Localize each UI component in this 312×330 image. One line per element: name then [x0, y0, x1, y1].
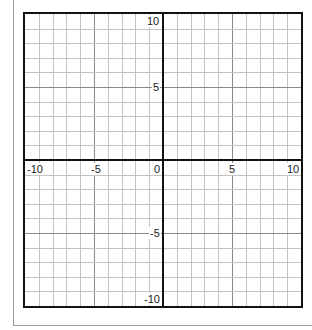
x-tick-label-10: 10 [286, 163, 300, 175]
coordinate-grid: -10 -5 0 5 10 10 5 -5 -10 [23, 12, 303, 308]
x-tick-label-neg10: -10 [26, 163, 44, 175]
y-axis [162, 14, 164, 306]
y-tick-label-neg5: -5 [149, 227, 161, 239]
y-tick-label-5: 5 [152, 81, 160, 93]
x-tick-label-5: 5 [228, 163, 236, 175]
x-tick-label-neg5: -5 [90, 163, 102, 175]
y-tick-label-neg10: -10 [143, 293, 161, 305]
y-tick-label-10: 10 [146, 15, 160, 27]
origin-label: 0 [153, 163, 161, 175]
